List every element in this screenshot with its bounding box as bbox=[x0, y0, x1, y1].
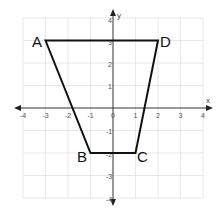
vertex-label-b: B bbox=[77, 148, 87, 165]
svg-text:1: 1 bbox=[134, 112, 138, 119]
svg-text:2: 2 bbox=[156, 112, 160, 119]
x-tick-labels: -4 -3 -2 -1 0 1 2 3 4 bbox=[20, 112, 205, 119]
y-tick-labels: 4 3 2 1 -1 -2 -3 -4 bbox=[106, 17, 112, 203]
y-axis-arrow-up-icon bbox=[110, 9, 116, 16]
svg-text:-3: -3 bbox=[43, 112, 49, 119]
svg-text:1: 1 bbox=[108, 83, 112, 90]
quadrilateral-abcd bbox=[46, 41, 159, 154]
svg-text:-4: -4 bbox=[20, 112, 26, 119]
svg-text:-1: -1 bbox=[88, 112, 94, 119]
vertex-label-d: D bbox=[160, 33, 171, 50]
x-axis-arrow-right-icon bbox=[206, 105, 213, 111]
svg-text:3: 3 bbox=[179, 112, 183, 119]
svg-text:4: 4 bbox=[201, 112, 205, 119]
y-axis-label: y bbox=[117, 11, 121, 20]
svg-text:4: 4 bbox=[108, 17, 112, 24]
x-axis-arrow-left-icon bbox=[14, 105, 21, 111]
coordinate-plane: x y -4 -3 -2 -1 0 1 2 3 4 4 3 2 1 -1 -2 … bbox=[0, 0, 222, 212]
svg-text:-4: -4 bbox=[106, 196, 112, 203]
svg-text:2: 2 bbox=[108, 61, 112, 68]
svg-text:-3: -3 bbox=[106, 173, 112, 180]
x-axis-label: x bbox=[206, 96, 210, 105]
svg-text:0: 0 bbox=[111, 112, 115, 119]
vertex-label-c: C bbox=[137, 148, 148, 165]
vertex-label-a: A bbox=[32, 33, 42, 50]
svg-text:-1: -1 bbox=[106, 128, 112, 135]
svg-text:-2: -2 bbox=[65, 112, 71, 119]
